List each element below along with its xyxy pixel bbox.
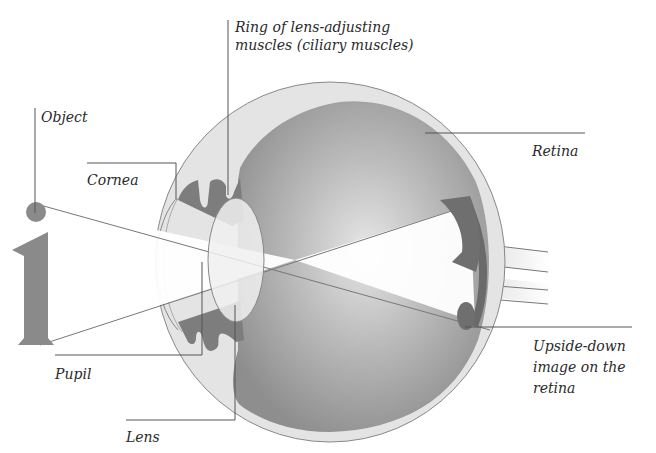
lens xyxy=(208,198,264,322)
retina-label: Retina xyxy=(532,142,578,160)
pupil-label: Pupil xyxy=(55,365,91,383)
object-stem xyxy=(12,232,54,345)
object-label: Object xyxy=(41,108,88,126)
lens-label: Lens xyxy=(126,428,160,446)
upside-down-image-label: Upside-down image on the retina xyxy=(533,336,626,399)
eye-diagram: Object Cornea Ring of lens-adjusting mus… xyxy=(0,0,656,453)
cornea-label: Cornea xyxy=(87,171,138,189)
object-dot xyxy=(26,202,46,222)
ciliary-muscles-label: Ring of lens-adjusting muscles (ciliary … xyxy=(235,18,414,54)
